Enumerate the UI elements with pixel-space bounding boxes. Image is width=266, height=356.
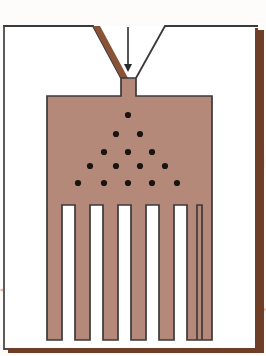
flow-particle-dot xyxy=(125,180,131,186)
flow-particle-dot xyxy=(149,180,155,186)
flow-particle-dot xyxy=(137,163,143,169)
flow-particle-dot xyxy=(113,131,119,137)
flow-particle-dot xyxy=(101,180,107,186)
flow-particle-dot xyxy=(101,149,107,155)
page-bottom-shadow xyxy=(8,348,264,353)
figure-root xyxy=(0,0,266,356)
flow-particle-dot xyxy=(174,180,180,186)
mold-cavity-diagram xyxy=(0,0,266,356)
flow-particle-dot xyxy=(125,149,131,155)
flow-particle-dot xyxy=(137,131,143,137)
flow-particle-dot xyxy=(125,112,131,118)
flow-particle-dot xyxy=(149,149,155,155)
flow-particle-dot xyxy=(113,163,119,169)
flow-particle-dot xyxy=(87,163,93,169)
flow-particle-dot xyxy=(162,163,168,169)
page-right-shadow xyxy=(258,30,264,352)
page-right-shadow-inner xyxy=(255,28,258,350)
flow-particle-dot xyxy=(75,180,81,186)
